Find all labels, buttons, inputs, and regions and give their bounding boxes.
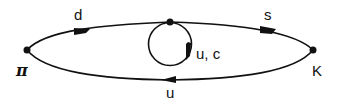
arrow-u-icon xyxy=(161,76,176,83)
label-u-c: u, c xyxy=(196,45,221,62)
label-s: s xyxy=(264,6,272,23)
label-K: K xyxy=(312,62,322,79)
label-pi: π xyxy=(15,61,28,80)
vertex-K xyxy=(310,47,317,54)
feynman-diagram: d s u, c u π K xyxy=(0,0,340,101)
label-u: u xyxy=(166,84,174,101)
quark-loop xyxy=(149,23,192,66)
label-d: d xyxy=(74,6,82,23)
arrow-d-icon xyxy=(74,28,90,35)
vertex-pi xyxy=(24,47,31,54)
arrow-loop-icon xyxy=(186,42,191,60)
vertex-loop xyxy=(167,19,174,26)
